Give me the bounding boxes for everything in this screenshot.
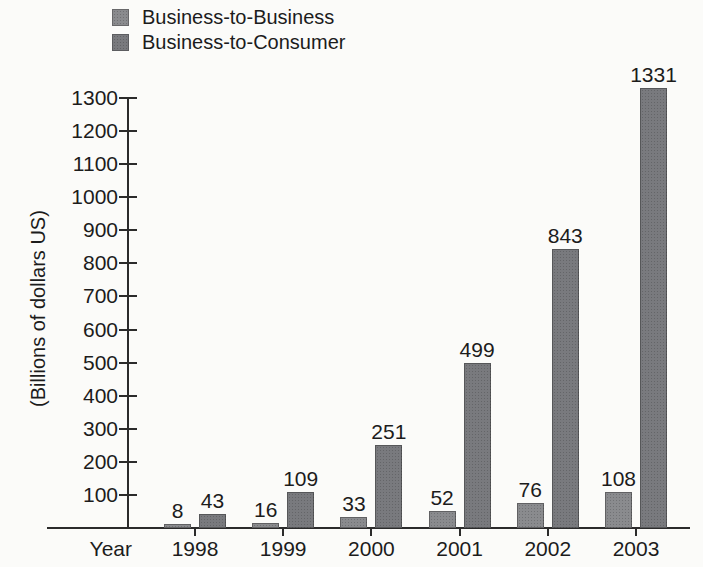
- bar-value-label-b2c-2001: 499: [437, 339, 517, 361]
- x-axis-line: [47, 527, 690, 529]
- y-tick-label: 600: [40, 319, 118, 341]
- chart-legend: Business-to-Business Business-to-Consume…: [112, 5, 345, 55]
- x-tick-label: 2000: [331, 538, 411, 560]
- x-tick-mark: [370, 528, 372, 536]
- y-tick-label: 400: [40, 385, 118, 407]
- y-tick-label: 500: [40, 352, 118, 374]
- bar-b2c-2000: [375, 445, 402, 528]
- bar-b2c-2003: [640, 88, 667, 528]
- bar-b2b-2001: [429, 511, 456, 528]
- y-tick-mark: [119, 428, 137, 430]
- x-tick-mark: [282, 528, 284, 536]
- y-tick-mark: [119, 494, 137, 496]
- b2b-legend-label: Business-to-Business: [142, 5, 334, 30]
- x-tick-label: 1998: [155, 538, 235, 560]
- y-tick-mark: [119, 130, 137, 132]
- x-tick-label: 1999: [243, 538, 323, 560]
- y-tick-label: 1300: [40, 87, 118, 109]
- bar-b2b-1998: [164, 524, 191, 528]
- bar-b2b-2003: [605, 492, 632, 528]
- bar-value-label-b2c-2002: 843: [525, 225, 605, 247]
- y-tick-mark: [119, 461, 137, 463]
- b2c-legend-label: Business-to-Consumer: [142, 30, 345, 55]
- y-tick-mark: [119, 97, 137, 99]
- bar-b2c-1998: [199, 514, 226, 528]
- legend-item-b2c: Business-to-Consumer: [112, 30, 345, 55]
- y-tick-label: 900: [40, 219, 118, 241]
- y-tick-label: 800: [40, 252, 118, 274]
- bar-chart-figure: Business-to-Business Business-to-Consume…: [0, 0, 703, 567]
- b2c-legend-swatch: [112, 34, 129, 51]
- x-tick-label: 2003: [596, 538, 676, 560]
- bar-b2c-1999: [287, 492, 314, 528]
- x-tick-mark: [547, 528, 549, 536]
- y-tick-mark: [119, 163, 137, 165]
- legend-item-b2b: Business-to-Business: [112, 5, 345, 30]
- bar-b2c-2002: [552, 249, 579, 528]
- bar-value-label-b2c-2003: 1331: [614, 64, 694, 86]
- x-tick-label: 2002: [508, 538, 588, 560]
- bar-b2c-2001: [464, 363, 491, 528]
- y-tick-label: 100: [40, 484, 118, 506]
- bar-b2b-1999: [252, 523, 279, 528]
- y-tick-label: 200: [40, 451, 118, 473]
- y-tick-mark: [119, 362, 137, 364]
- x-tick-mark: [194, 528, 196, 536]
- y-tick-mark: [119, 329, 137, 331]
- y-tick-label: 700: [40, 285, 118, 307]
- y-tick-mark: [119, 395, 137, 397]
- y-tick-mark: [119, 229, 137, 231]
- y-tick-mark: [119, 262, 137, 264]
- y-tick-mark: [119, 295, 137, 297]
- y-tick-label: 1200: [40, 120, 118, 142]
- x-tick-label: 2001: [420, 538, 500, 560]
- x-axis-title: Year: [60, 538, 132, 560]
- bar-value-label-b2c-1999: 109: [261, 468, 341, 490]
- bar-b2b-2002: [517, 503, 544, 528]
- b2b-legend-swatch: [112, 9, 129, 26]
- bar-value-label-b2c-2000: 251: [349, 421, 429, 443]
- x-tick-mark: [635, 528, 637, 536]
- x-tick-mark: [459, 528, 461, 536]
- y-tick-label: 1100: [40, 153, 118, 175]
- y-tick-mark: [119, 196, 137, 198]
- y-tick-label: 300: [40, 418, 118, 440]
- y-tick-label: 1000: [40, 186, 118, 208]
- bar-b2b-2000: [340, 517, 367, 528]
